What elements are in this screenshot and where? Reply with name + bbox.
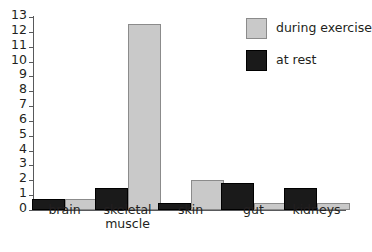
bar [128,24,161,210]
y-tick-label: 10 [11,54,27,67]
y-tick-label: 8 [19,83,27,96]
y-tick-label: 1 [19,187,27,200]
bar-group [95,17,161,210]
legend-label: during exercise [276,22,372,35]
y-tick-label: 9 [19,68,27,81]
y-tick-label: 11 [11,39,27,52]
x-axis-label: brain [33,203,96,217]
x-axis-label: gut [222,203,285,217]
y-tick-label: 12 [11,24,27,37]
bar-group [32,17,98,210]
legend-item: during exercise [246,18,372,39]
y-tick-label: 3 [19,157,27,170]
legend: during exerciseat rest [246,18,372,82]
x-axis-label: kidneys [285,203,348,217]
y-tick-label: 5 [19,128,27,141]
legend-swatch-icon [246,50,267,71]
legend-item: at rest [246,50,372,71]
x-axis-label: skin [159,203,222,217]
y-tick-label: 0 [19,202,27,215]
legend-label: at rest [276,54,317,67]
y-tick-label: 2 [19,172,27,185]
y-tick-label: 7 [19,98,27,111]
y-tick-label: 4 [19,143,27,156]
bar-group [158,17,224,210]
y-tick-label: 13 [11,9,27,22]
x-axis-label: skeletal muscle [96,203,159,231]
legend-swatch-icon [246,18,267,39]
y-tick-label: 6 [19,113,27,126]
